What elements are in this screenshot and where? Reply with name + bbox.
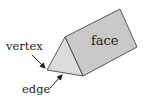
- edge-arrow: [50, 75, 62, 88]
- vertex-arrow: [32, 55, 45, 68]
- prism-diagram: face vertex edge: [0, 0, 146, 105]
- vertex-label: vertex: [5, 39, 43, 53]
- face-label: face: [91, 33, 119, 48]
- edge-label: edge: [22, 82, 51, 96]
